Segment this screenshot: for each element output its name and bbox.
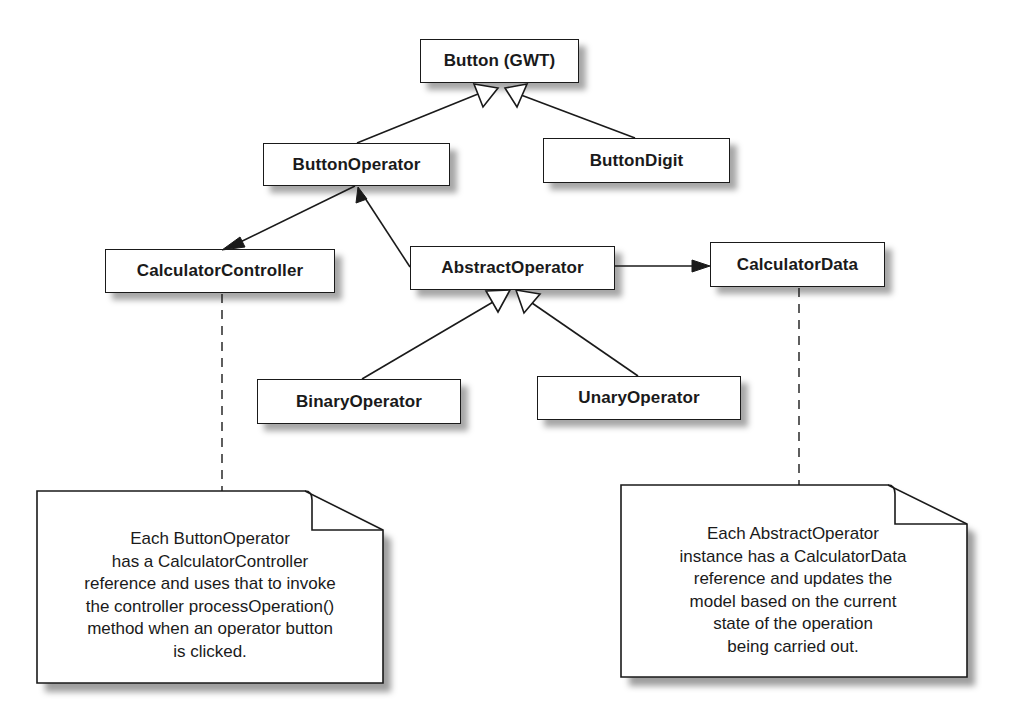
association-line-buttonoperator	[363, 195, 410, 267]
class-label: ButtonOperator	[293, 155, 421, 175]
note-controller: Each ButtonOperator has a CalculatorCont…	[44, 528, 376, 663]
note-line: method when an operator button	[44, 618, 376, 641]
note-line: Each AbstractOperator	[630, 523, 956, 546]
class-calculator-data: CalculatorData	[710, 242, 885, 287]
class-label: CalculatorData	[737, 255, 858, 275]
class-button-operator: ButtonOperator	[263, 143, 450, 186]
generalization-arrowhead-icon	[474, 84, 498, 107]
note-line: is clicked.	[44, 641, 376, 664]
class-button-digit: ButtonDigit	[543, 138, 730, 183]
class-label: CalculatorController	[137, 261, 303, 281]
class-unary-operator: UnaryOperator	[537, 376, 741, 420]
note-line: Each ButtonOperator	[44, 528, 376, 551]
class-button-gwt: Button (GWT)	[420, 39, 579, 83]
note-line: reference and updates the	[630, 568, 956, 591]
class-label: ButtonDigit	[590, 151, 684, 171]
note-controller-fold	[305, 491, 383, 530]
association-arrowhead-icon	[692, 260, 710, 272]
class-label: AbstractOperator	[441, 258, 583, 278]
generalization-arrowhead-icon	[516, 290, 540, 313]
note-data: Each AbstractOperator instance has a Cal…	[630, 523, 956, 658]
uml-class-diagram: Button (GWT) ButtonOperator ButtonDigit …	[0, 0, 1009, 718]
generalization-arrowhead-icon	[486, 290, 510, 312]
note-line: model based on the current	[630, 591, 956, 614]
association-line-controller	[232, 186, 355, 246]
generalization-line-buttonoperator	[357, 94, 478, 143]
class-abstract-operator: AbstractOperator	[410, 246, 615, 290]
note-line: state of the operation	[630, 613, 956, 636]
generalization-line-buttondigit	[521, 95, 635, 138]
note-line: has a CalculatorController	[44, 551, 376, 574]
generalization-line-binaryoperator	[362, 302, 493, 379]
association-arrowhead-icon	[356, 187, 367, 203]
note-line: the controller processOperation()	[44, 596, 376, 619]
class-calculator-controller: CalculatorController	[105, 249, 335, 293]
note-line: reference and uses that to invoke	[44, 573, 376, 596]
class-label: BinaryOperator	[296, 392, 422, 412]
note-line: instance has a CalculatorData	[630, 546, 956, 569]
class-binary-operator: BinaryOperator	[257, 379, 461, 424]
class-label: Button (GWT)	[444, 51, 556, 71]
generalization-arrowhead-icon	[505, 84, 527, 107]
generalization-line-unaryoperator	[532, 303, 638, 376]
note-data-fold	[888, 485, 967, 524]
note-line: being carried out.	[630, 636, 956, 659]
class-label: UnaryOperator	[578, 388, 699, 408]
